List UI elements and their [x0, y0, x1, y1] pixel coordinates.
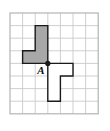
point-a-group [45, 61, 50, 66]
geometry-figure-container: A [0, 0, 110, 131]
geometry-figure-svg: A [0, 0, 110, 131]
point-a-dot [45, 61, 50, 66]
point-a-label: A [36, 64, 44, 76]
